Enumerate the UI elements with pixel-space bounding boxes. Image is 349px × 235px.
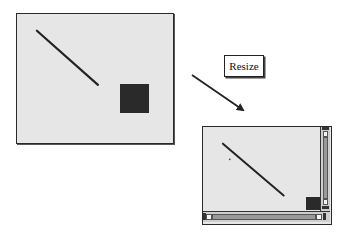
canvas-before bbox=[17, 14, 173, 143]
scroll-thumb[interactable] bbox=[323, 199, 328, 205]
scroll-thumb[interactable] bbox=[316, 214, 322, 220]
horizontal-scrollbar[interactable] bbox=[203, 211, 330, 222]
window-after-resize bbox=[202, 126, 332, 225]
dark-square bbox=[120, 84, 149, 113]
scroll-up-arrow-icon[interactable] bbox=[322, 127, 329, 130]
diagonal-line bbox=[223, 144, 284, 196]
resize-label: Resize bbox=[224, 55, 264, 77]
small-dot bbox=[229, 158, 231, 160]
vertical-scrollbar[interactable] bbox=[320, 127, 330, 211]
window-before-resize bbox=[16, 13, 174, 144]
scroll-track[interactable] bbox=[323, 137, 328, 199]
dark-square bbox=[306, 197, 320, 210]
scroll-right-arrow-icon[interactable] bbox=[323, 213, 326, 220]
diagonal-line bbox=[37, 31, 98, 85]
scroll-track[interactable] bbox=[212, 214, 316, 220]
scroll-down-arrow-icon[interactable] bbox=[322, 206, 329, 209]
